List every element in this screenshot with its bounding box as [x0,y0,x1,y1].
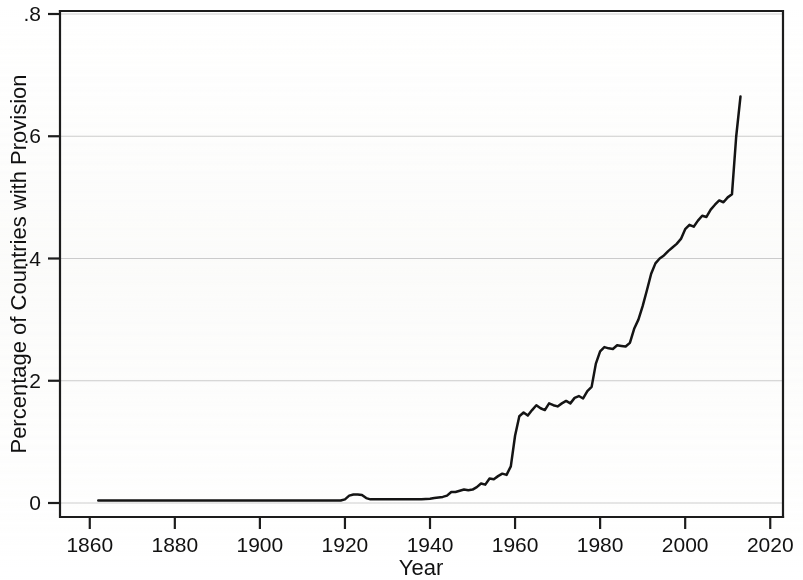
x-tick-label: 1920 [322,533,369,556]
y-tick-marks-group [48,14,60,503]
x-tick-label: 2020 [747,533,794,556]
series-group [98,97,740,501]
x-tick-label: 1940 [407,533,454,556]
x-tick-label: 1900 [237,533,284,556]
y-axis-title: Percentage of Countries with Provision [6,74,31,453]
chart-figure: 186018801900192019401960198020002020 0.2… [0,0,803,580]
line-chart-plot: 186018801900192019401960198020002020 0.2… [0,0,803,580]
x-tick-labels-group: 186018801900192019401960198020002020 [66,533,793,556]
axis-top-right [60,11,783,517]
series-line-provision [98,97,740,501]
y-tick-label: 0 [29,491,41,514]
y-tick-label: .8 [23,2,41,25]
x-tick-marks-group [90,517,770,529]
x-tick-label: 1980 [577,533,624,556]
axis-left-bottom [60,11,783,517]
x-tick-label: 2000 [662,533,709,556]
x-axis-title: Year [399,555,443,580]
x-tick-label: 1960 [492,533,539,556]
gridlines-group [61,14,782,503]
x-tick-label: 1860 [66,533,113,556]
x-tick-label: 1880 [151,533,198,556]
axes-frame [60,11,783,517]
